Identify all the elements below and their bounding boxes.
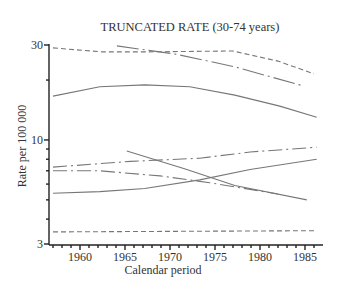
plot-lines: [53, 46, 317, 232]
chart-title: TRUNCATED RATE (30-74 years): [101, 20, 280, 34]
x-tick-label: 1960: [68, 250, 92, 264]
x-tick-label: 1965: [113, 250, 137, 264]
series-line-8: [53, 231, 317, 232]
series-line-1: [53, 48, 314, 74]
y-axis-label: Rate per 100 000: [15, 105, 29, 187]
y-tick-label: 30: [31, 38, 43, 52]
line-chart: TRUNCATED RATE (30-74 years) 31030 19601…: [0, 0, 342, 293]
y-ticks: 31030: [31, 38, 49, 251]
series-line-3: [53, 85, 317, 117]
series-line-4: [53, 147, 317, 167]
x-tick-label: 1985: [293, 250, 317, 264]
y-tick-label: 3: [37, 237, 43, 251]
axes: 31030 196019651970197519801985: [31, 38, 323, 264]
x-tick-label: 1970: [158, 250, 182, 264]
x-tick-label: 1975: [203, 250, 227, 264]
x-ticks: 196019651970197519801985: [53, 245, 317, 264]
series-line-5: [53, 171, 278, 194]
x-tick-label: 1980: [248, 250, 272, 264]
y-tick-label: 10: [31, 133, 43, 147]
series-line-6: [53, 159, 317, 193]
x-axis-label: Calendar period: [125, 263, 202, 277]
